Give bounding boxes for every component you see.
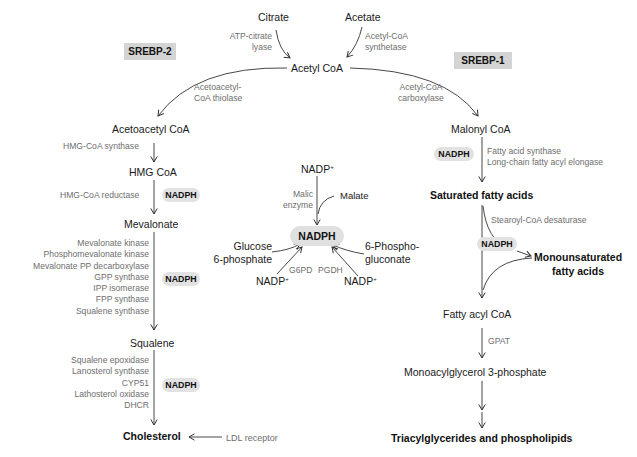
lipid-synthesis-pathway-diagram: SREBP-2 SREBP-1 Citrate Acetate ATP-citr… [0,0,637,457]
nadph-central-pill: NADPH [290,226,344,246]
fatty-acyl-coa-label: Fatty acyl CoA [443,309,511,320]
enzyme-squalene-synthase: Squalene synthase [4,306,149,317]
enzyme-dhcr: DHCR [40,400,149,411]
acetyl-coa-synthetase-label: Acetyl-CoA synthetase [365,31,408,54]
nadp-left-text: NADP [256,275,285,287]
squalene-label: Squalene [130,338,174,349]
fatty-acid-enzymes-label: Fatty acid synthase Long-chain fatty acy… [487,146,603,169]
mufa-line1: Monounsaturated [534,250,622,264]
nadph-badge-fatty-acid-synthase: NADPH [434,147,474,161]
srebp-2-label: SREBP-2 [124,43,176,60]
stearoyl-coa-desaturase-label: Stearoyl-CoA desaturase [491,215,587,226]
g6pd-label: G6PD [289,265,312,276]
acetate-label: Acetate [345,12,381,23]
atp-citrate-lyase-label: ATP-citrate lyase [222,31,272,54]
ldl-receptor-label: LDL receptor [226,433,278,444]
malonyl-coa-label: Malonyl CoA [451,124,511,135]
enzyme-phosphomevalonate-kinase: Phosphomevalonate kinase [4,249,149,260]
citrate-label: Citrate [258,12,289,23]
acetyl-coa-label: Acetyl CoA [291,63,343,74]
enzyme-gpp-synthase: GPP synthase [4,272,149,283]
plus-superscript: + [330,164,334,170]
phosphogluconate-line1: 6-Phospho- [365,240,419,253]
nadp-plus-top: NADP+ [301,164,334,175]
mevalonate-label: Mevalonate [124,219,178,230]
enzyme-lathosterol-oxidase: Lathosterol oxidase [40,389,149,400]
srebp-1-label: SREBP-1 [454,52,512,69]
enzyme-cyp51: CYP51 [40,378,149,389]
nadph-badge-hmg-reductase: NADPH [162,188,200,202]
squalene-enzyme-list: Squalene epoxidase Lanosterol synthase C… [40,355,149,411]
plus-superscript: + [285,276,289,282]
malic-enzyme-label: Malic enzyme [278,189,313,212]
monounsaturated-fatty-acids-label: Monounsaturated fatty acids [534,250,622,278]
atp-citrate-lyase-line2: lyase [222,42,272,53]
nadp-plus-right: NADP+ [344,276,377,287]
malate-label: Malate [340,191,369,201]
triacylglycerides-phospholipids-label: Triacylglycerides and phospholipids [391,433,572,444]
pgdh-label: PGDH [318,265,343,276]
nadph-badge-mevalonate: NADPH [162,272,200,286]
saturated-fatty-acids-label: Saturated fatty acids [430,190,533,201]
glucose-line2: 6-phosphate [212,253,272,266]
enzyme-lanosterol-synthase: Lanosterol synthase [40,366,149,377]
acetoacetyl-coa-label: Acetoacetyl CoA [112,124,190,135]
nadp-right-text: NADP [344,275,373,287]
hmg-coa-reductase-label: HMG-CoA reductase [60,190,139,201]
enzyme-mevalonate-kinase: Mevalonate kinase [4,238,149,249]
acetyl-coa-carboxylase-label: Acetyl-CoA carboxylase [398,82,444,105]
acetyl-coa-synthetase-line1: Acetyl-CoA [365,31,408,42]
nadph-badge-desaturase: NADPH [477,237,517,251]
malic-enzyme-line2: enzyme [278,200,313,211]
cholesterol-label: Cholesterol [123,431,181,442]
6-phosphogluconate-label: 6-Phospho- gluconate [365,240,419,266]
mevalonate-enzyme-list: Mevalonate kinase Phosphomevalonate kina… [4,238,149,317]
nadp-plus-left: NADP+ [256,276,289,287]
acetyl-coa-synthetase-line2: synthetase [365,42,408,53]
mufa-line2: fatty acids [534,264,622,278]
phosphogluconate-line2: gluconate [365,253,419,266]
glucose-6-phosphate-label: Glucose 6-phosphate [222,240,272,266]
plus-superscript: + [373,276,377,282]
enzyme-fpp-synthase: FPP synthase [4,294,149,305]
thiolase-line2: CoA thiolase [194,93,242,104]
hmg-coa-synthase-label: HMG-CoA synthase [63,141,139,152]
thiolase-line1: Acetoacetyl- [194,82,242,93]
hmg-coa-label: HMG CoA [129,167,177,178]
fatty-acid-synthase: Fatty acid synthase [487,146,603,157]
enzyme-ipp-isomerase: IPP isomerase [4,283,149,294]
monoacylglycerol-3-phosphate-label: Monoacylglycerol 3-phosphate [404,367,546,378]
long-chain-fatty-acyl-elongase: Long-chain fatty acyl elongase [487,157,603,168]
atp-citrate-lyase-line1: ATP-citrate [222,31,272,42]
acc-line1: Acetyl-CoA [398,82,444,93]
enzyme-mevalonate-pp-decarboxylase: Mevalonate PP decarboxylase [4,261,149,272]
acetoacetyl-coa-thiolase-label: Acetoacetyl- CoA thiolase [194,82,242,105]
malic-enzyme-line1: Malic [278,189,313,200]
glucose-line1: Glucose [222,240,272,253]
enzyme-squalene-epoxidase: Squalene epoxidase [40,355,149,366]
acc-line2: carboxylase [398,93,444,104]
gpat-label: GPAT [488,336,510,347]
nadp-top-text: NADP [301,163,330,175]
nadph-badge-squalene: NADPH [162,378,200,392]
